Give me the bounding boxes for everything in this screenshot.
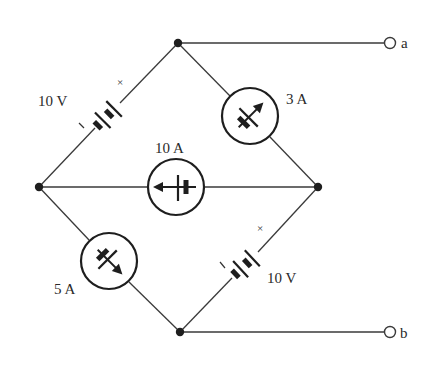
circuit-diagram: 10 V × 3 A 10 A 5 A — [0, 0, 442, 367]
v2-label: 10 V — [267, 270, 296, 286]
i3-label: 3 A — [286, 91, 307, 107]
v2-plus-marker: × — [257, 222, 263, 234]
v1-label: 10 V — [38, 93, 67, 109]
i10-label: 10 A — [155, 140, 184, 156]
terminal-a-label: a — [401, 35, 408, 51]
wire-i3-to-right — [270, 137, 318, 187]
wire-v1-to-top — [120, 43, 178, 103]
voltage-source-10v-left: 10 V × — [38, 76, 123, 133]
wire-bottom-to-v2 — [180, 278, 232, 332]
wire-top-to-i3 — [178, 43, 230, 96]
node-top — [174, 39, 182, 47]
wire-i5-to-bottom — [129, 282, 180, 332]
wire-v2-to-right — [258, 187, 318, 252]
terminal-b-label: b — [400, 325, 408, 341]
v2-minus-marker — [220, 262, 225, 268]
current-source-5a: 5 A — [54, 233, 137, 297]
terminal-a-circle — [385, 38, 396, 49]
wire-left-to-v1 — [39, 128, 95, 187]
circuit-canvas: 10 V × 3 A 10 A 5 A — [0, 0, 442, 367]
wire-left-to-i5 — [39, 187, 89, 240]
v1-minus-marker — [79, 123, 84, 128]
battery-plate-negative — [106, 110, 113, 117]
terminal-b-circle — [385, 327, 396, 338]
node-right — [314, 183, 322, 191]
v1-plus-marker: × — [117, 76, 123, 88]
battery-plate-negative — [94, 122, 101, 129]
node-left — [35, 183, 43, 191]
battery-plate-negative — [244, 259, 251, 266]
terminal-b: b — [385, 325, 408, 341]
current-source-3a: 3 A — [222, 88, 307, 144]
terminal-a: a — [385, 35, 409, 51]
i5-label: 5 A — [54, 281, 75, 297]
battery-plate-negative — [232, 270, 239, 277]
node-bottom — [176, 328, 184, 336]
current-source-10a: 10 A — [148, 140, 204, 215]
wires — [39, 43, 385, 332]
voltage-source-10v-right: 10 V × — [220, 222, 296, 286]
